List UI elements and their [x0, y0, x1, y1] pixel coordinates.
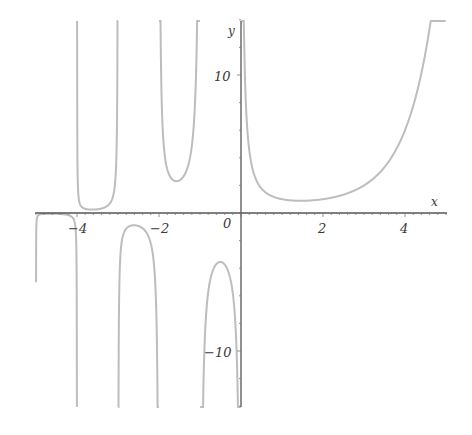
gamma-curve-branch-4	[200, 262, 241, 407]
origin-label: 0	[223, 216, 231, 231]
y-tick-label-neg10: −10	[204, 345, 231, 360]
x-tick-label-4: 4	[399, 221, 408, 236]
gamma-curve-branch-1	[77, 21, 118, 210]
gamma-function-plot: x y 0 −4 −2 2 4 10 −10	[0, 0, 472, 435]
gamma-curve-branch-2	[118, 225, 159, 407]
x-tick-label-2: 2	[317, 221, 326, 236]
x-tick-label-neg4: −4	[68, 221, 87, 236]
axes-group	[35, 20, 447, 407]
gamma-curve-branch-3	[159, 21, 200, 181]
y-axis-label: y	[227, 24, 235, 38]
x-axis-label: x	[431, 195, 438, 209]
gamma-curve-branch-0	[36, 214, 77, 407]
x-tick-label-neg2: −2	[150, 221, 169, 236]
y-tick-label-10: 10	[214, 69, 231, 84]
gamma-curve-branch-5	[241, 21, 445, 201]
